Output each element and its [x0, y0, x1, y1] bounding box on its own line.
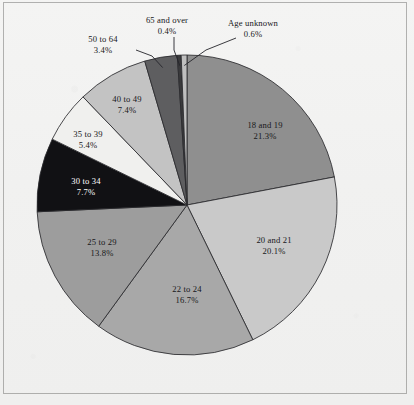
- slice-category-label: 50 to 64: [88, 34, 118, 44]
- slice-category-label: Age unknown: [228, 18, 279, 28]
- slice-category-label: 35 to 39: [73, 129, 102, 139]
- slice-percent-label: 20.1%: [263, 246, 286, 256]
- slice-category-label: 18 and 19: [247, 120, 282, 130]
- slice-category-label: 65 and over: [146, 15, 188, 25]
- slice-category-label: 22 to 24: [172, 284, 202, 294]
- slice-percent-label: 5.4%: [79, 140, 98, 150]
- pie-wedge-group: [37, 55, 337, 355]
- slice-category-label: 25 to 29: [87, 237, 116, 247]
- slice-percent-label: 0.6%: [244, 29, 263, 39]
- slice-percent-label: 21.3%: [254, 131, 277, 141]
- slice-category-label: 30 to 34: [71, 176, 101, 186]
- slice-percent-label: 0.4%: [158, 26, 177, 36]
- slice-percent-label: 3.4%: [94, 45, 113, 55]
- slice-percent-label: 16.7%: [176, 295, 199, 305]
- pie-chart: 18 and 1921.3%20 and 2120.1%22 to 2416.7…: [0, 0, 414, 405]
- slice-percent-label: 7.4%: [118, 105, 137, 115]
- slice-category-label: 40 to 49: [112, 94, 141, 104]
- scanned-page-background: 18 and 1921.3%20 and 2120.1%22 to 2416.7…: [0, 0, 414, 405]
- slice-percent-label: 13.8%: [91, 248, 114, 258]
- slice-percent-label: 7.7%: [77, 187, 96, 197]
- slice-category-label: 20 and 21: [256, 235, 291, 245]
